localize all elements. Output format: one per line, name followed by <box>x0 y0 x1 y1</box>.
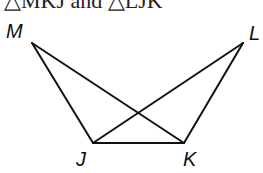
vertex-label-j: J <box>76 148 86 171</box>
triangle-diagram <box>0 0 263 173</box>
vertex-label-m: M <box>6 20 23 43</box>
segment-mj <box>32 43 93 143</box>
vertex-label-k: K <box>183 148 196 171</box>
vertex-label-l: L <box>249 22 260 45</box>
segment-lk <box>184 43 243 143</box>
segment-mk <box>32 43 184 143</box>
segment-lj <box>93 43 243 143</box>
